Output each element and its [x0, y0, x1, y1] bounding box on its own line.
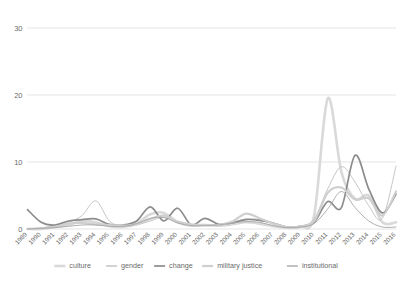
x-tick-label: 1992	[54, 230, 69, 245]
x-tick-label: 2011	[314, 230, 329, 245]
gridlines-group	[28, 28, 397, 229]
chart-canvas: 0102030 19891990199119921993199419951996…	[0, 0, 404, 282]
x-tick-label: 2016	[382, 230, 397, 245]
x-tick-label: 1990	[27, 230, 42, 245]
x-tick-label: 2012	[327, 230, 342, 245]
x-tick-label: 2013	[341, 230, 356, 245]
x-tick-label: 2000	[163, 230, 178, 245]
legend-label-military-justice: military justice	[217, 261, 262, 270]
x-tick-label: 1997	[122, 230, 137, 245]
x-tick-label: 1989	[13, 230, 28, 245]
legend-label-gender: gender	[121, 261, 144, 270]
x-tick-label: 1996	[109, 230, 124, 245]
x-tick-label: 1995	[95, 230, 110, 245]
plot-area: 0102030 19891990199119921993199419951996…	[0, 0, 404, 282]
y-tick-label: 20	[14, 91, 22, 100]
x-tick-label: 2003	[204, 230, 219, 245]
x-tick-label: 2006	[245, 230, 260, 245]
y-axis-ticks: 0102030	[14, 24, 22, 234]
x-tick-label: 1994	[81, 230, 96, 245]
x-tick-label: 1991	[41, 230, 56, 245]
x-tick-label: 2007	[259, 230, 274, 245]
legend-label-institutional: institutional	[302, 261, 338, 270]
legend-label-culture: culture	[69, 261, 91, 270]
legend-label-change: change	[169, 261, 193, 270]
x-tick-label: 2002	[191, 230, 206, 245]
x-tick-label: 2009	[286, 230, 301, 245]
chart-legend: culturegenderchangemilitary justiceinsti…	[54, 261, 338, 270]
x-tick-label: 1999	[150, 230, 165, 245]
series-group	[28, 98, 397, 229]
x-tick-label: 1998	[136, 230, 151, 245]
y-tick-label: 10	[14, 158, 22, 167]
x-tick-label: 2008	[273, 230, 288, 245]
x-tick-label: 2015	[368, 230, 383, 245]
x-tick-label: 2014	[354, 230, 369, 245]
x-tick-label: 2005	[232, 230, 247, 245]
x-tick-label: 2004	[218, 230, 233, 245]
y-tick-label: 30	[14, 24, 22, 33]
x-tick-label: 2001	[177, 230, 192, 245]
line-chart: 0102030 19891990199119921993199419951996…	[0, 0, 404, 282]
x-tick-label: 2010	[300, 230, 315, 245]
x-axis-ticks: 1989199019911992199319941995199619971998…	[13, 230, 397, 245]
x-tick-label: 1993	[68, 230, 83, 245]
